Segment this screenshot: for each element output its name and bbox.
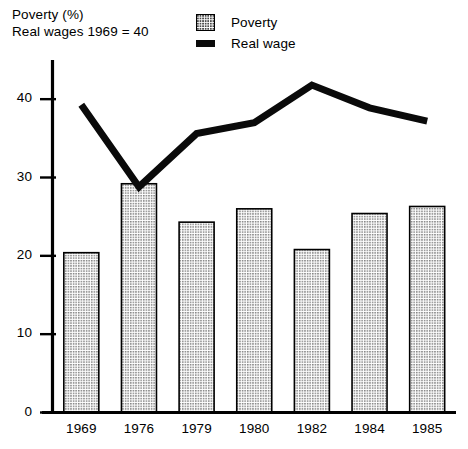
x-tick-label-1982: 1982 xyxy=(284,421,340,436)
x-tick-label-1976: 1976 xyxy=(111,421,167,436)
plot-area xyxy=(0,0,468,449)
bar-series-poverty xyxy=(64,184,445,413)
y-tick-label: 10 xyxy=(6,325,32,340)
y-tick-label: 40 xyxy=(6,90,32,105)
bar-1982 xyxy=(294,250,329,413)
x-tick-label-1969: 1969 xyxy=(53,421,109,436)
bar-1979 xyxy=(179,222,214,412)
x-tick-label-1985: 1985 xyxy=(399,421,455,436)
line-series-real-wage xyxy=(81,85,427,187)
bar-1976 xyxy=(121,184,156,413)
y-tick-label: 0 xyxy=(6,404,32,419)
y-tick-label: 20 xyxy=(6,247,32,262)
x-tick-label-1984: 1984 xyxy=(342,421,398,436)
bar-1980 xyxy=(237,209,272,413)
bar-1984 xyxy=(352,214,387,413)
x-tick-label-1979: 1979 xyxy=(169,421,225,436)
bar-1985 xyxy=(410,206,445,412)
x-tick-label-1980: 1980 xyxy=(226,421,282,436)
poverty-real-wage-chart: Poverty (%) Real wages 1969 = 40 Poverty… xyxy=(0,0,468,449)
y-tick-label: 30 xyxy=(6,169,32,184)
bar-1969 xyxy=(64,253,99,413)
